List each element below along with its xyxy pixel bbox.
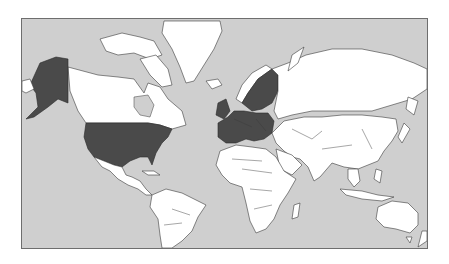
region-south-america: [150, 189, 206, 248]
region-indonesia: [340, 189, 394, 201]
region-australia: [376, 201, 418, 233]
region-canada-arctic-islands: [100, 33, 162, 59]
world-map: [21, 18, 428, 249]
region-japan: [398, 123, 410, 143]
region-southeast-asia: [348, 169, 360, 187]
region-iceland: [206, 79, 222, 89]
region-new-zealand: [418, 231, 427, 247]
region-greenland: [162, 21, 222, 83]
region-tasmania: [406, 237, 412, 243]
region-baffin-island: [140, 55, 172, 87]
region-madagascar: [292, 203, 300, 219]
region-cuba: [142, 171, 160, 175]
world-map-svg: [22, 19, 427, 248]
region-kamchatka: [406, 97, 418, 115]
region-philippines: [374, 169, 382, 183]
region-uk-ireland: [216, 99, 230, 119]
